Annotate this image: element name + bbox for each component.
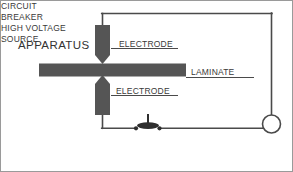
circuit-breaker-symbol xyxy=(134,114,162,130)
breaker-contact-left xyxy=(134,126,138,130)
laminate-bar xyxy=(39,64,186,77)
label-electrode-bottom: ELECTRODE xyxy=(116,86,170,97)
electrode-top xyxy=(95,25,110,64)
label-apparatus: APPARATUS xyxy=(18,40,90,51)
high-voltage-source-symbol xyxy=(263,115,281,133)
label-electrode-top: ELECTRODE xyxy=(119,39,173,50)
label-laminate: LAMINATE xyxy=(191,67,234,78)
diagram-figure: APPARATUS ELECTRODE ELECTRODE LAMINATE C… xyxy=(0,0,293,172)
electrode-bottom xyxy=(95,75,110,115)
